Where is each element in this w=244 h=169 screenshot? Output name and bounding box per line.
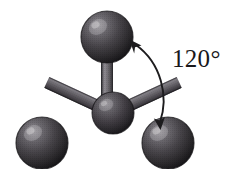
atom-top	[81, 11, 133, 63]
angle-arrow	[130, 40, 166, 131]
molecular-model-figure: 120°	[0, 0, 244, 169]
atom-bottom-left	[16, 117, 68, 169]
atom-bottom-right	[142, 117, 194, 169]
molecule-canvas	[0, 0, 244, 169]
bond-angle-label: 120°	[172, 46, 221, 71]
atom-center	[92, 92, 134, 134]
